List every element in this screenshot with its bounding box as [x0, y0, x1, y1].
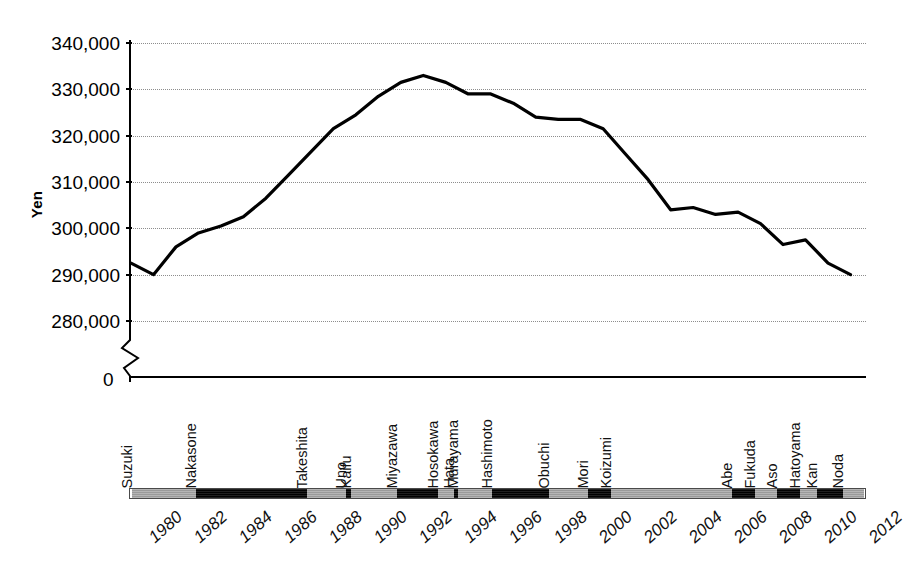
pm-name-label: Takeshita — [295, 427, 310, 488]
pm-term-segment — [611, 489, 732, 498]
x-tick-label: 1988 — [326, 508, 365, 546]
x-tick-label: 1984 — [236, 508, 275, 546]
y-tick-label: 330,000 — [51, 80, 120, 99]
pm-name-label: Mori — [576, 460, 591, 488]
pm-term-segment — [549, 489, 588, 498]
pm-term-segment — [458, 489, 492, 498]
x-tick-label: 1986 — [281, 508, 320, 546]
x-tick-label: 2004 — [685, 508, 724, 546]
x-tick-label: 1994 — [460, 508, 499, 546]
data-series-line — [129, 40, 866, 378]
x-tick-label: 2008 — [775, 508, 814, 546]
pm-term-segment — [817, 489, 843, 498]
pm-name-label: Murayama — [446, 420, 461, 489]
x-tick-label: 1990 — [371, 508, 410, 546]
x-tick-label: 2002 — [640, 508, 679, 546]
pm-name-label: Abe — [720, 462, 735, 488]
pm-name-label: Kan — [804, 462, 819, 488]
x-tick-label: 1982 — [191, 508, 230, 546]
y-tick-label: 300,000 — [51, 219, 120, 238]
pm-name-label: Hashimoto — [479, 419, 494, 488]
pm-name-label: Aso — [765, 463, 780, 488]
pm-name-label: Obuchi — [537, 442, 552, 488]
pm-name-label: Suzuki — [120, 444, 135, 488]
x-axis-year-labels-group: 1980198219841986198819901992199419961998… — [129, 508, 866, 578]
x-tick-label: 2010 — [820, 508, 859, 546]
y-tick-label: 280,000 — [51, 312, 120, 331]
pm-term-segment — [800, 489, 817, 498]
pm-name-label: Miyazawa — [385, 424, 400, 488]
pm-name-label: Kaifu — [339, 455, 354, 488]
pm-name-label: Hosokawa — [425, 420, 440, 488]
pm-name-label: Fukuda — [742, 440, 757, 488]
pm-name-label: Koizumi — [598, 436, 613, 488]
pm-name-label: Noda — [830, 453, 845, 488]
pm-term-segment — [732, 489, 754, 498]
pm-term-segment — [132, 489, 196, 498]
pm-term-segment — [755, 489, 777, 498]
pm-term-segment — [307, 489, 345, 498]
y-tick-label: 290,000 — [51, 265, 120, 284]
x-tick-label: 1992 — [416, 508, 455, 546]
pm-term-segment — [843, 489, 864, 498]
pm-term-segment — [777, 489, 799, 498]
plot-area: 340,000330,000320,000310,000300,000290,0… — [129, 40, 866, 378]
pm-term-segment — [196, 489, 307, 498]
pm-name-label: Nakasone — [184, 423, 199, 488]
x-tick-label: 1980 — [146, 508, 185, 546]
pm-term-segment — [351, 489, 397, 498]
prime-minister-term-bar — [129, 488, 866, 499]
pm-term-segment — [397, 489, 437, 498]
y-tick-label: 310,000 — [51, 173, 120, 192]
pm-term-segment — [438, 489, 454, 498]
pm-term-segment — [588, 489, 610, 498]
pm-name-label: Hatoyama — [787, 422, 802, 488]
x-tick-label: 2000 — [595, 508, 634, 546]
prime-minister-band: SuzukiNakasoneTakeshitaUnoKaifuMiyazawaH… — [129, 398, 866, 498]
prime-minister-labels-group: SuzukiNakasoneTakeshitaUnoKaifuMiyazawaH… — [129, 398, 866, 488]
y-tick-label-zero: 0 — [103, 370, 114, 389]
x-tick-label: 1998 — [550, 508, 589, 546]
pm-term-segment — [492, 489, 549, 498]
y-tick-label: 320,000 — [51, 126, 120, 145]
y-tick-label: 340,000 — [51, 34, 120, 53]
x-tick-label: 1996 — [505, 508, 544, 546]
y-axis-title: Yen — [28, 175, 45, 235]
x-tick-label: 2006 — [730, 508, 769, 546]
x-tick-label: 2012 — [865, 508, 904, 546]
